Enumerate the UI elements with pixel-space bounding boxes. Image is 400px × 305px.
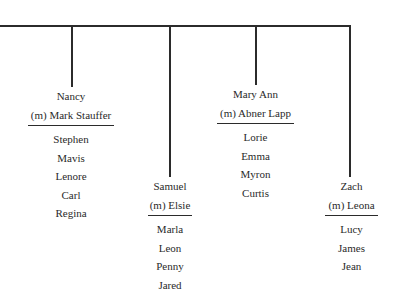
child-name: Stephen — [28, 130, 114, 149]
family-nancy: Nancy(m) Mark StaufferStephenMavisLenore… — [28, 87, 114, 223]
family-samuel: Samuel(m) ElsieMarlaLeonPennyJared — [148, 177, 192, 294]
person-name: Samuel — [148, 177, 192, 196]
child-name: Emma — [217, 147, 294, 166]
person-name: Mary Ann — [217, 85, 294, 104]
child-name: Penny — [148, 257, 192, 276]
spouse-name: (m) Elsie — [148, 196, 192, 215]
person-name: Zach — [325, 177, 378, 196]
person-name: Nancy — [28, 87, 114, 106]
child-name: Carl — [28, 186, 114, 205]
child-name: Marla — [148, 220, 192, 239]
child-name: Myron — [217, 165, 294, 184]
child-name: Leon — [148, 239, 192, 258]
child-name: Lucy — [325, 220, 378, 239]
child-name: Curtis — [217, 184, 294, 203]
branch-line-samuel — [169, 25, 171, 177]
family-zach: Zach(m) LeonaLucyJamesJean — [325, 177, 378, 276]
marriage-rule — [148, 215, 192, 216]
trunk-line — [0, 25, 350, 27]
child-name: Jean — [325, 257, 378, 276]
child-name: Regina — [28, 204, 114, 223]
branch-line-zach — [349, 25, 351, 177]
child-name: Jared — [148, 276, 192, 295]
marriage-rule — [325, 215, 378, 216]
child-name: Lorie — [217, 128, 294, 147]
marriage-rule — [217, 123, 294, 124]
marriage-rule — [28, 125, 114, 126]
branch-line-nancy — [71, 25, 73, 87]
child-name: James — [325, 239, 378, 258]
child-name: Lenore — [28, 167, 114, 186]
branch-line-mary-ann — [255, 25, 257, 85]
child-name: Mavis — [28, 149, 114, 168]
spouse-name: (m) Abner Lapp — [217, 104, 294, 123]
spouse-name: (m) Mark Stauffer — [28, 106, 114, 125]
spouse-name: (m) Leona — [325, 196, 378, 215]
family-mary-ann: Mary Ann(m) Abner LappLorieEmmaMyronCurt… — [217, 85, 294, 202]
